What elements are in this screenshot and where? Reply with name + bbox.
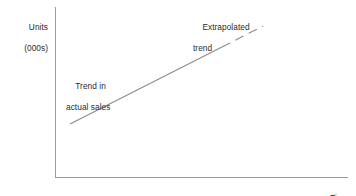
- y-axis-label: Units (000s): [0, 11, 48, 75]
- trend-chart: Units (000s) Time Trend in actual sales …: [0, 0, 356, 196]
- annotation-extrapolated-trend-line2: trend: [193, 43, 250, 54]
- annotation-actual-trend: Trend in actual sales: [66, 70, 110, 134]
- annotation-extrapolated-trend: Extrapolated trend: [193, 11, 250, 75]
- y-axis-label-line2: (000s): [0, 43, 48, 54]
- x-axis-label: Time: [321, 182, 349, 196]
- x-axis-label-text: Time: [330, 193, 348, 196]
- annotation-actual-trend-line2: actual sales: [66, 102, 110, 113]
- y-axis-label-line1: Units: [29, 22, 48, 32]
- annotation-actual-trend-line1: Trend in: [75, 81, 106, 91]
- chart-canvas: [0, 0, 356, 196]
- annotation-extrapolated-trend-line1: Extrapolated: [202, 22, 249, 32]
